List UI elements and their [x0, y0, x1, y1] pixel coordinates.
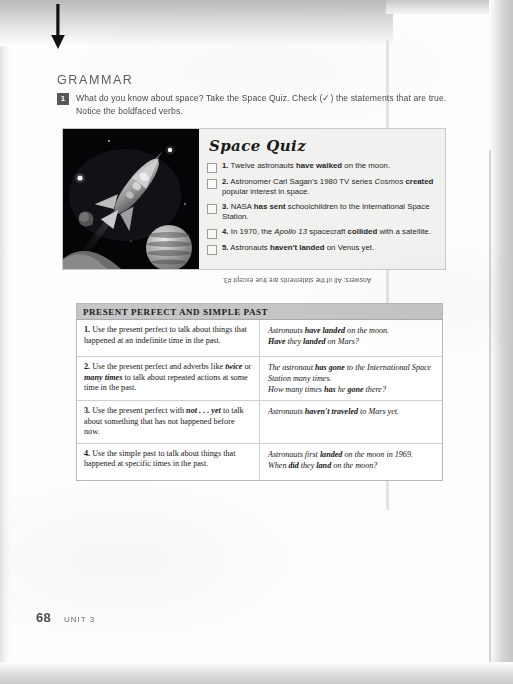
- example-sentence: Astronauts have landed on the moon.: [268, 325, 435, 336]
- grammar-examples-2: The astronaut has gone to the Internatio…: [260, 357, 442, 400]
- quiz-statement-3: 3. NASA has sent schoolchildren to the I…: [222, 202, 437, 223]
- space-quiz-title: Space Quiz: [209, 137, 437, 155]
- unit-label: UNIT 3: [64, 615, 95, 624]
- quiz-statement-text: Astronomer Carl Sagan's 1980 TV series C…: [222, 177, 433, 196]
- quiz-checkbox-1[interactable]: [207, 163, 217, 173]
- grammar-examples-4: Astronauts first landed on the moon in 1…: [260, 444, 442, 480]
- rule-text: Use the present perfect to talk about th…: [84, 325, 247, 345]
- space-quiz-panel: Space Quiz 1. Twelve astronauts have wal…: [62, 128, 446, 270]
- grammar-rule-1: 1. Use the present perfect to talk about…: [77, 320, 260, 356]
- quiz-answer-key: Answers: All of the statements are true …: [222, 277, 444, 284]
- grammar-chart: PRESENT PERFECT AND SIMPLE PAST 1. Use t…: [76, 303, 443, 481]
- quiz-checkbox-3[interactable]: [207, 204, 217, 214]
- quiz-statement-text: Twelve astronauts have walked on the moo…: [231, 161, 391, 170]
- quiz-checkbox-4[interactable]: [207, 229, 217, 239]
- table-row: 4. Use the simple past to talk about thi…: [77, 444, 442, 480]
- quiz-item-number: 5.: [222, 243, 229, 252]
- quiz-item-number: 4.: [222, 227, 229, 236]
- rule-number: 2.: [84, 362, 90, 371]
- grammar-rule-2: 2. Use the present perfect and adverbs l…: [77, 357, 260, 400]
- quiz-item[interactable]: 2. Astronomer Carl Sagan's 1980 TV serie…: [207, 177, 437, 198]
- quiz-checkbox-5[interactable]: [207, 245, 217, 255]
- rule-text: Use the present perfect with not . . . y…: [84, 406, 244, 436]
- page-content: GRAMMAR 1 What do you know about space? …: [0, 0, 513, 684]
- exercise-instruction: What do you know about space? Take the S…: [76, 92, 447, 117]
- quiz-checkbox-2[interactable]: [207, 179, 217, 189]
- down-arrow-icon: [50, 4, 66, 50]
- table-row: 3. Use the present perfect with not . . …: [77, 401, 442, 444]
- grammar-chart-header: PRESENT PERFECT AND SIMPLE PAST: [77, 304, 442, 320]
- quiz-statement-text: Astronauts haven't landed on Venus yet.: [230, 243, 374, 252]
- grammar-examples-3: Astronauts haven't traveled to Mars yet.: [260, 401, 442, 443]
- quiz-statement-2: 2. Astronomer Carl Sagan's 1980 TV serie…: [222, 177, 437, 198]
- example-sentence: Astronauts haven't traveled to Mars yet.: [268, 406, 435, 417]
- example-sentence: Astronauts first landed on the moon in 1…: [268, 449, 435, 460]
- exercise-1: 1 What do you know about space? Take the…: [57, 92, 447, 117]
- example-sentence: When did they land on the moon?: [268, 460, 435, 471]
- example-sentence: The astronaut has gone to the Internatio…: [268, 362, 435, 384]
- rule-text: Use the simple past to talk about things…: [84, 449, 235, 469]
- quiz-statement-5: 5. Astronauts haven't landed on Venus ye…: [222, 243, 374, 253]
- space-quiz-body: Space Quiz 1. Twelve astronauts have wal…: [199, 129, 445, 269]
- page-title: GRAMMAR: [57, 73, 133, 87]
- quiz-statement-1: 1. Twelve astronauts have walked on the …: [222, 161, 390, 171]
- quiz-statement-text: NASA has sent schoolchildren to the Inte…: [222, 202, 430, 221]
- quiz-item[interactable]: 3. NASA has sent schoolchildren to the I…: [207, 202, 437, 223]
- rule-number: 1.: [84, 325, 90, 334]
- quiz-item-number: 3.: [222, 202, 229, 211]
- page-number: 68: [36, 610, 51, 625]
- quiz-item-number: 1.: [222, 161, 229, 170]
- quiz-statement-text: In 1970, the Apollo 13 spacecraft collid…: [231, 227, 431, 236]
- quiz-item[interactable]: 5. Astronauts haven't landed on Venus ye…: [207, 243, 437, 255]
- grammar-examples-1: Astronauts have landed on the moon. Have…: [260, 320, 442, 356]
- table-row: 1. Use the present perfect to talk about…: [77, 320, 442, 357]
- quiz-item[interactable]: 4. In 1970, the Apollo 13 spacecraft col…: [207, 227, 437, 239]
- quiz-statement-4: 4. In 1970, the Apollo 13 spacecraft col…: [222, 227, 431, 237]
- rule-number: 3.: [84, 406, 90, 415]
- quiz-item-number: 2.: [222, 177, 229, 186]
- example-sentence: How many times has he gone there?: [268, 384, 435, 395]
- grammar-rule-4: 4. Use the simple past to talk about thi…: [77, 444, 260, 480]
- example-sentence: Have they landed on Mars?: [268, 336, 435, 347]
- table-row: 2. Use the present perfect and adverbs l…: [77, 357, 442, 401]
- rocket-in-space-illustration: [63, 129, 199, 269]
- quiz-item[interactable]: 1. Twelve astronauts have walked on the …: [207, 161, 437, 173]
- page-footer: 68 UNIT 3: [36, 610, 95, 625]
- grammar-rule-3: 3. Use the present perfect with not . . …: [77, 401, 260, 443]
- rule-number: 4.: [84, 449, 90, 458]
- rule-text: Use the present perfect and adverbs like…: [84, 362, 251, 392]
- exercise-number-badge: 1: [57, 93, 69, 105]
